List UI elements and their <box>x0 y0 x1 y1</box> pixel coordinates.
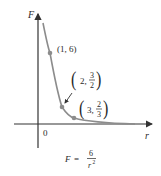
point-1-6 <box>48 51 53 56</box>
pointer-arrow <box>65 93 72 103</box>
svg-text:2: 2 <box>93 159 96 165</box>
chart: F r 0 (1, 6) ( 2, 3 2 ) ( 3, 2 3 ) F = 6… <box>0 0 161 176</box>
label-point-2: ( 2, 3 2 ) <box>71 68 101 91</box>
svg-text:6: 6 <box>89 149 93 158</box>
svg-text:(: ( <box>71 68 76 91</box>
svg-text:3: 3 <box>90 71 94 80</box>
svg-text:=: = <box>74 154 79 164</box>
y-axis-label: F <box>27 9 35 20</box>
svg-text:F: F <box>64 154 71 164</box>
svg-text:r: r <box>88 161 92 170</box>
label-point-3: ( 3, 2 3 ) <box>79 97 108 120</box>
x-axis-label: r <box>145 130 149 141</box>
svg-text:2,: 2, <box>80 76 87 86</box>
label-point-1: (1, 6) <box>57 44 77 54</box>
origin-label: 0 <box>43 128 48 138</box>
svg-text:2: 2 <box>97 100 101 109</box>
point-3-2-3 <box>72 116 77 121</box>
svg-text:): ) <box>96 68 101 91</box>
svg-text:2: 2 <box>90 81 94 90</box>
svg-text:3: 3 <box>97 110 101 119</box>
svg-text:3,: 3, <box>87 105 94 115</box>
formula: F = 6 r 2 <box>64 149 96 170</box>
svg-text:): ) <box>103 97 108 120</box>
point-2-3-2 <box>60 105 65 110</box>
svg-text:(: ( <box>79 97 84 120</box>
